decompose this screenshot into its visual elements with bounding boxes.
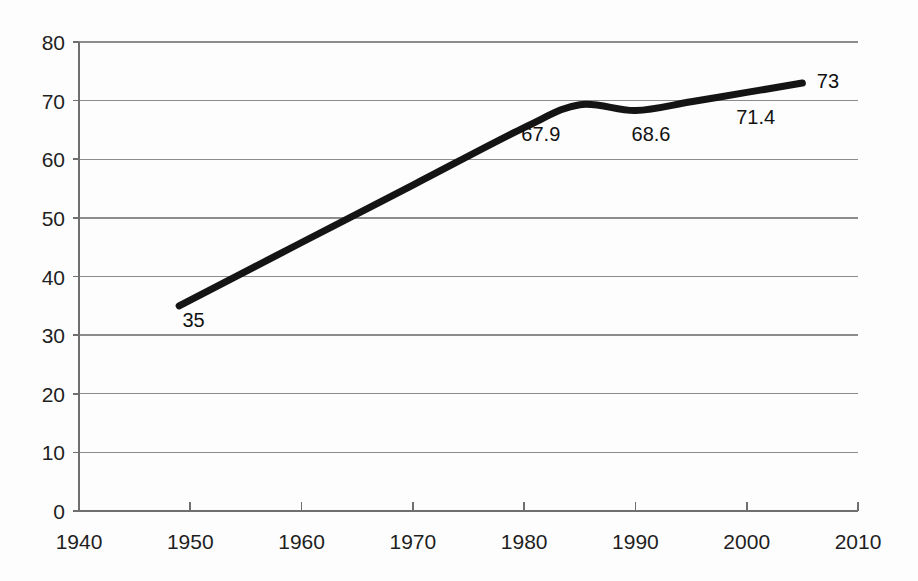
x-axis-tick-label: 2000 [723,530,770,553]
data-point-label: 67.9 [521,123,560,145]
data-point-labels: 3567.968.671.473 [182,70,839,331]
y-axis-tick-label: 10 [42,441,65,464]
x-axis-tick-labels: 19401950196019701980199020002010 [56,530,882,553]
data-point-label: 68.6 [632,123,671,145]
y-axis-tick-label: 50 [42,207,65,230]
data-point-label: 73 [817,70,839,92]
y-axis-tick-label: 20 [42,383,65,406]
y-axis-tick-labels: 01020304050607080 [42,31,65,523]
data-series [179,83,802,306]
y-axis-tick-label: 60 [42,148,65,171]
x-axis-tick-label: 1970 [389,530,436,553]
y-axis-tick-label: 30 [42,324,65,347]
chart-container: 01020304050607080 1940195019601970198019… [0,0,918,581]
x-axis-tick-label: 1950 [167,530,214,553]
x-axis-tick-label: 1960 [278,530,325,553]
data-point-label: 71.4 [736,106,775,128]
y-axis-tick-label: 0 [53,500,65,523]
y-axis-tick-label: 80 [42,31,65,54]
x-axis-tick-label: 1980 [501,530,548,553]
x-axis-tick-label: 1990 [612,530,659,553]
series-line-value [179,83,802,306]
x-axis-tick-label: 2010 [835,530,882,553]
y-axis-tick-label: 40 [42,266,65,289]
data-point-label: 35 [182,309,204,331]
line-chart: 01020304050607080 1940195019601970198019… [0,0,918,581]
x-axis-tick-label: 1940 [56,530,103,553]
y-axis-tick-label: 70 [42,90,65,113]
